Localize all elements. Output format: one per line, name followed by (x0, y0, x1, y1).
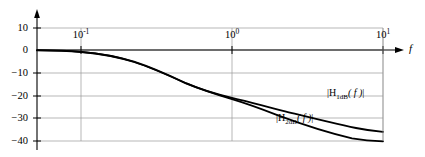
h1db-subscript: 1dB (336, 93, 348, 101)
ytick-label-0: 0 (2, 45, 28, 56)
xtick-label-1e-1: 10-1 (61, 30, 101, 41)
h1db-suffix: | (362, 87, 364, 98)
bode-magnitude-plot: 10 0 −10 −20 −30 −40 10-1 100 101 f |H1d… (0, 0, 425, 157)
x-axis-label: f (409, 42, 412, 54)
h1db-prefix: |H (327, 87, 336, 98)
xtick-label-1e1: 101 (363, 30, 403, 41)
ytick-label-minus40: −40 (2, 136, 28, 147)
curve-label-h1db: |H1dB( f )| (327, 88, 364, 98)
y-axis-arrowhead (34, 9, 40, 18)
xtick-mantissa-1e1: 10 (376, 29, 387, 40)
curve-label-h2db: |H2dB( f )| (276, 113, 313, 123)
h2db-prefix: |H (276, 112, 285, 123)
h2db-subscript: 2dB (285, 118, 297, 126)
xtick-label-1e0: 100 (212, 30, 252, 41)
xtick-exponent-1e-1: -1 (83, 27, 89, 36)
xtick-mantissa-1e-1: 10 (73, 29, 84, 40)
h1db-argument: ( f ) (348, 87, 362, 98)
xtick-exponent-1e1: 1 (386, 27, 390, 36)
plot-canvas (0, 0, 425, 157)
ytick-label-minus30: −30 (2, 113, 28, 124)
x-axis-arrowhead (395, 47, 404, 53)
h2db-suffix: | (311, 112, 313, 123)
xtick-mantissa-1e0: 10 (225, 29, 236, 40)
horizontal-gridlines (37, 28, 383, 141)
y-axis (34, 9, 40, 150)
ytick-label-minus10: −10 (2, 68, 28, 79)
h2db-argument: ( f ) (297, 112, 311, 123)
xtick-exponent-1e0: 0 (235, 27, 239, 36)
ytick-label-10: 10 (2, 23, 28, 34)
ytick-label-minus20: −20 (2, 91, 28, 102)
